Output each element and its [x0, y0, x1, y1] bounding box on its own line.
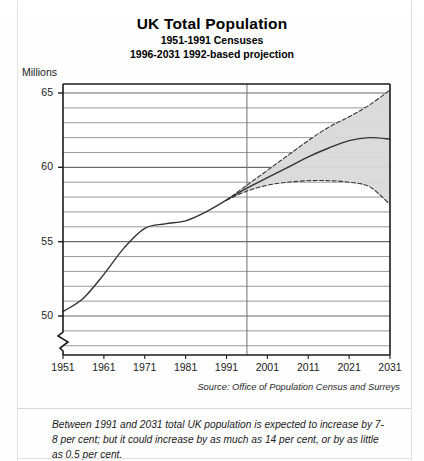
x-tick-label: 1951	[43, 361, 83, 373]
x-tick-label: 1961	[84, 361, 124, 373]
footnote-text: Between 1991 and 2031 total UK populatio…	[52, 417, 388, 461]
y-tick-label: 50	[27, 309, 53, 321]
chart-page: UK Total Population 1951-1991 Censuses 1…	[0, 0, 424, 461]
chart-plot-area: 50556065 1951196119711981199120012011202…	[0, 0, 424, 400]
x-tick-label: 1991	[207, 361, 247, 373]
y-tick-label: 65	[27, 86, 53, 98]
x-tick-label: 2031	[370, 361, 410, 373]
source-caption: Source: Office of Population Census and …	[0, 382, 400, 392]
x-tick-label: 2011	[288, 361, 328, 373]
x-tick-label: 1981	[166, 361, 206, 373]
y-tick-label: 55	[27, 235, 53, 247]
x-tick-label: 1971	[125, 361, 165, 373]
x-tick-label: 2021	[329, 361, 369, 373]
x-tick-label: 2001	[247, 361, 287, 373]
footnote-divider-top	[17, 408, 411, 409]
y-tick-label: 60	[27, 160, 53, 172]
footnote-divider-bottom	[17, 458, 411, 459]
population-line-chart	[0, 0, 424, 400]
